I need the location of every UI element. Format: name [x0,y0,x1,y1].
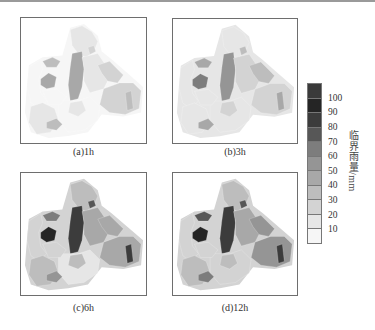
map-panel-b [172,18,298,144]
colorbar-segment [308,84,321,99]
caption-b: (b)3h [172,146,298,157]
colorbar-tick: 60 [328,151,338,161]
colorbar-segment [308,171,321,186]
colorbar-tick: 10 [328,224,338,234]
colorbar-tick: 100 [328,93,342,103]
map-svg-d [173,173,297,295]
caption-d: (d)12h [172,302,298,313]
colorbar-segment [308,128,321,143]
map-svg-c [21,173,146,295]
colorbar-segment [308,186,321,201]
map-panel-c [20,172,147,296]
caption-c: (c)6h [20,302,147,313]
colorbar-tick: 50 [328,166,338,176]
map-panel-d [172,172,298,296]
colorbar-tick: 30 [328,195,338,205]
map-svg-b [173,19,297,143]
colorbar-tick: 80 [328,122,338,132]
colorbar-segment [308,99,321,114]
top-rule [0,0,375,2]
colorbar-segment [308,229,321,243]
colorbar-segment [308,142,321,157]
colorbar-tick: 20 [328,210,338,220]
map-panel-a [20,17,147,144]
colorbar-tick: 90 [328,107,338,117]
colorbar-segment [308,215,321,230]
colorbar-segment [308,113,321,128]
colorbar [307,83,322,244]
colorbar-segment [308,157,321,172]
colorbar-tick: 40 [328,180,338,190]
map-svg-a [21,18,146,143]
colorbar-segment [308,200,321,215]
colorbar-tick: 70 [328,137,338,147]
colorbar-label: 临界雨量/mm [344,130,360,192]
caption-a: (a)1h [20,146,147,157]
